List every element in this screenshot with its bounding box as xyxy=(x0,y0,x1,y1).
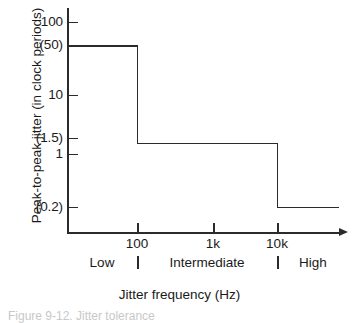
x-axis-line xyxy=(67,232,341,234)
step-drop-at-10khz xyxy=(277,143,279,208)
region-label-low: Low xyxy=(47,255,157,270)
x-axis-label-1k: 1k xyxy=(183,237,243,251)
y-axis-tick-10 xyxy=(68,95,78,96)
x-axis-tick-1k xyxy=(213,223,215,233)
region-label-intermediate: Intermediate xyxy=(152,255,262,270)
step-segment-level-1p5 xyxy=(137,143,277,145)
y-axis-tick-1 xyxy=(68,154,78,155)
y-axis-tick-1p5 xyxy=(68,138,78,139)
y-axis-line xyxy=(67,8,69,233)
region-label-high: High xyxy=(258,255,359,270)
x-axis-tick-10k xyxy=(277,223,279,233)
y-axis-tick-0p2 xyxy=(68,207,78,208)
x-axis-tick-100 xyxy=(137,223,139,233)
step-drop-at-100hz xyxy=(137,45,139,144)
x-axis-label-100: 100 xyxy=(107,237,167,251)
y-axis-tick-100 xyxy=(68,22,78,23)
x-axis-arrow-icon xyxy=(339,228,348,236)
step-segment-level-0p2 xyxy=(277,207,339,209)
step-segment-level-50 xyxy=(68,45,138,47)
figure-caption: Figure 9-12. Jitter tolerance xyxy=(8,310,348,323)
x-axis-title: Jitter frequency (Hz) xyxy=(0,287,359,302)
y-axis-title: Peak-to-peak jitter (in clock periods) xyxy=(29,0,44,232)
x-axis-label-10k: 10k xyxy=(247,237,307,251)
